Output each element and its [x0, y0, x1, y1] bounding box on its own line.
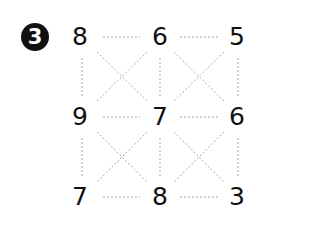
grid-number-r3c3: 3: [222, 182, 252, 212]
grid-number-r1c3: 5: [222, 22, 252, 52]
grid-number-r2c2: 7: [145, 102, 175, 132]
grid-number-r3c1: 7: [65, 182, 95, 212]
grid-number-r1c2: 6: [145, 22, 175, 52]
grid-number-r1c1: 8: [65, 22, 95, 52]
grid-number-r2c1: 9: [65, 102, 95, 132]
grid-number-r2c3: 6: [222, 102, 252, 132]
grid-number-r3c2: 8: [145, 182, 175, 212]
